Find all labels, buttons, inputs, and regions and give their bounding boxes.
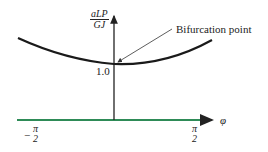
bifurcation-diagram: aLP GJ Bifurcation point 1.0 φ − π 2 π 2 (0, 0, 268, 152)
load-curve (18, 38, 212, 64)
x-tick-neg-pi-half: π 2 (32, 124, 39, 144)
y-tick-1: 1.0 (96, 66, 110, 77)
x-axis-label: φ (220, 115, 226, 126)
x-tick-pos-pi-half: π 2 (191, 124, 198, 144)
bifurcation-annotation: Bifurcation point (176, 24, 251, 35)
y-axis-label: aLP GJ (90, 9, 109, 30)
x-tick-neg-sign: − (24, 130, 30, 141)
annotation-arrow (118, 29, 172, 62)
